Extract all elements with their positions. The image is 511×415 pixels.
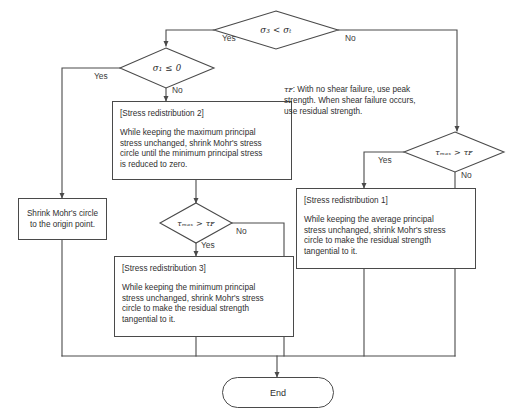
text-line: tangential to it. (122, 315, 286, 326)
edge-label-d3-no: No (236, 226, 247, 236)
decision-major-principal-check: σ₁ ≤ 0 (120, 48, 214, 88)
process-stress-redistribution-3-body: While keeping the minimum principal stre… (122, 283, 286, 325)
text-line: stress unchanged, shrink Mohr's stress (122, 294, 286, 305)
edge-label-d3-yes: Yes (201, 240, 215, 250)
annotation-text-1: : With no shear failure, use peak (293, 85, 410, 94)
process-stress-redistribution-1-title: [Stress redistribution 1] (304, 195, 468, 206)
edge-label-d4-yes: Yes (378, 155, 392, 165)
decision-tensile-check-label: σ₃ < σₜ (214, 11, 338, 49)
edge-label-d2-no: No (172, 85, 183, 95)
decision-tensile-check: σ₃ < σₜ (214, 11, 338, 49)
process-stress-redistribution-1: [Stress redistribution 1] While keeping … (296, 188, 476, 269)
decision-shear-check-left: τₘₐₓ > τꜰ (160, 203, 232, 243)
decision-major-principal-check-label: σ₁ ≤ 0 (120, 48, 214, 88)
process-stress-redistribution-3: [Stress redistribution 3] While keeping … (114, 256, 294, 337)
edge-label-d2-yes: Yes (94, 71, 108, 81)
text-line: Shrink Mohr's circle (27, 208, 98, 219)
process-stress-redistribution-2-title: [Stress redistribution 2] (120, 108, 284, 119)
text-line: stress unchanged, shrink Mohr's stress (304, 226, 468, 237)
edge-label-d1-yes: Yes (222, 33, 236, 43)
text-line: is reduced to zero. (120, 160, 284, 171)
decision-shear-check-left-label: τₘₐₓ > τꜰ (160, 203, 232, 243)
text-line: circle to make the residual strength (122, 304, 286, 315)
text-line: While keeping the minimum principal (122, 283, 286, 294)
process-stress-redistribution-1-body: While keeping the average principal stre… (304, 215, 468, 257)
text-line: circle to make the residual strength (304, 236, 468, 247)
text-line: to the origin point. (27, 219, 98, 230)
text-line: tangential to it. (304, 247, 468, 258)
process-stress-redistribution-3-title: [Stress redistribution 3] (122, 263, 286, 274)
annotation-text-2: strength. When shear failure occurs, (284, 96, 454, 107)
decision-shear-check-right: τₘₐₓ > τꜰ (404, 132, 504, 172)
process-stress-redistribution-2-body: While keeping the maximum principal stre… (120, 128, 284, 170)
annotation-symbol: τꜰ (284, 84, 293, 94)
annotation-text-3: use residual strength. (284, 107, 454, 118)
edge-label-d1-no: No (345, 33, 356, 43)
text-line: While keeping the average principal (304, 215, 468, 226)
flowchart-canvas: σ₃ < σₜ σ₁ ≤ 0 τₘₐₓ > τꜰ τₘₐₓ > τꜰ Yes N… (0, 0, 511, 415)
edge-label-d4-no: No (461, 170, 472, 180)
edge-d1-yes (166, 30, 214, 46)
text-line: While keeping the maximum principal (120, 128, 284, 139)
terminator-end: End (222, 377, 334, 408)
process-shrink-mohr-circle-origin-body: Shrink Mohr's circle to the origin point… (27, 208, 98, 230)
annotation-line-1: τꜰ: With no shear failure, use peak (284, 84, 454, 96)
process-shrink-mohr-circle-origin: Shrink Mohr's circle to the origin point… (18, 198, 107, 240)
text-line: stress unchanged, shrink Mohr's stress (120, 139, 284, 150)
terminator-end-label: End (270, 388, 286, 398)
annotation-tau-f-note: τꜰ: With no shear failure, use peak stre… (284, 84, 454, 117)
decision-shear-check-right-label: τₘₐₓ > τꜰ (404, 132, 504, 172)
process-stress-redistribution-2: [Stress redistribution 2] While keeping … (112, 101, 292, 180)
text-line: circle until the minimum principal stres… (120, 149, 284, 160)
